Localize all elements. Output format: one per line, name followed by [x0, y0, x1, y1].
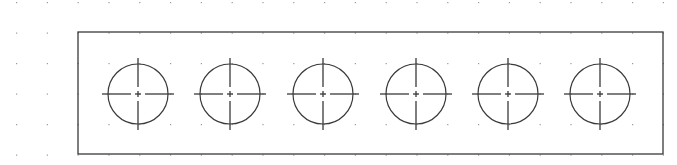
grid-dot: [262, 33, 263, 34]
grid-dot: [170, 33, 171, 34]
grid-dot: [201, 124, 202, 125]
grid-dot: [355, 124, 356, 125]
grid-dot: [293, 2, 294, 3]
hole-pattern: [102, 58, 636, 130]
grid-dot: [386, 155, 387, 156]
grid-dot: [386, 33, 387, 34]
hole-1: [102, 58, 174, 130]
grid-dot: [509, 2, 510, 3]
grid-dot: [570, 63, 571, 64]
hole-2: [194, 58, 266, 130]
grid-dot: [47, 124, 48, 125]
grid-dot: [232, 2, 233, 3]
grid-dot: [16, 124, 17, 125]
grid-dot: [478, 33, 479, 34]
grid-dot: [170, 63, 171, 64]
cad-drawing-canvas: [0, 0, 677, 165]
grid-dot: [509, 155, 510, 156]
grid-dot: [632, 2, 633, 3]
grid-dot: [324, 33, 325, 34]
grid-dot: [570, 33, 571, 34]
grid-dot: [632, 124, 633, 125]
grid-dot: [16, 2, 17, 3]
grid-dot: [293, 33, 294, 34]
grid-dot: [478, 155, 479, 156]
grid-dot: [416, 155, 417, 156]
grid-dot: [47, 2, 48, 3]
grid-dot: [386, 63, 387, 64]
grid-dot: [601, 33, 602, 34]
grid-dot: [447, 2, 448, 3]
grid-dot: [139, 155, 140, 156]
grid-dot: [447, 33, 448, 34]
grid-dot: [16, 155, 17, 156]
grid-dot: [355, 63, 356, 64]
grid-dot: [170, 155, 171, 156]
grid-dot: [201, 33, 202, 34]
grid-dot: [632, 63, 633, 64]
grid-dot: [108, 63, 109, 64]
grid-dot: [540, 2, 541, 3]
grid-dot: [324, 2, 325, 3]
grid-dot: [108, 33, 109, 34]
grid-dot: [355, 155, 356, 156]
grid-dot: [262, 155, 263, 156]
hole-4: [380, 58, 452, 130]
grid-dot: [416, 33, 417, 34]
grid-dot: [47, 155, 48, 156]
grid-dot: [447, 63, 448, 64]
grid-dot: [47, 94, 48, 95]
grid-dot: [16, 94, 17, 95]
hole-5: [472, 58, 544, 130]
grid-dot: [540, 155, 541, 156]
grid-dot: [262, 124, 263, 125]
grid-dot: [601, 2, 602, 3]
grid-dot: [663, 155, 664, 156]
grid-dot: [355, 33, 356, 34]
grid-dot: [570, 155, 571, 156]
grid-dot: [293, 124, 294, 125]
grid-dot: [632, 155, 633, 156]
grid-dot: [386, 2, 387, 3]
grid-dot: [540, 63, 541, 64]
plate-outline: [78, 32, 663, 154]
grid-dot: [293, 155, 294, 156]
grid-dot: [540, 124, 541, 125]
grid-dot: [355, 2, 356, 3]
snap-grid-dots: [16, 2, 664, 156]
grid-dot: [262, 2, 263, 3]
grid-dot: [447, 155, 448, 156]
grid-dot: [632, 33, 633, 34]
grid-dot: [139, 33, 140, 34]
grid-dot: [108, 124, 109, 125]
grid-dot: [170, 2, 171, 3]
grid-dot: [663, 2, 664, 3]
grid-dot: [570, 124, 571, 125]
grid-dot: [201, 2, 202, 3]
grid-dot: [601, 155, 602, 156]
grid-dot: [47, 33, 48, 34]
grid-dot: [232, 155, 233, 156]
grid-dot: [570, 2, 571, 3]
grid-dot: [108, 155, 109, 156]
grid-dot: [509, 33, 510, 34]
grid-dot: [324, 155, 325, 156]
grid-dot: [232, 33, 233, 34]
grid-dot: [478, 63, 479, 64]
grid-dot: [478, 2, 479, 3]
hole-3: [287, 58, 359, 130]
grid-dot: [201, 63, 202, 64]
grid-dot: [201, 155, 202, 156]
grid-dot: [386, 124, 387, 125]
hole-6: [564, 58, 636, 130]
grid-dot: [293, 63, 294, 64]
grid-dot: [78, 155, 79, 156]
grid-dot: [16, 33, 17, 34]
grid-dot: [16, 63, 17, 64]
grid-dot: [262, 63, 263, 64]
grid-dot: [139, 2, 140, 3]
grid-dot: [47, 63, 48, 64]
grid-dot: [478, 124, 479, 125]
grid-dot: [540, 33, 541, 34]
grid-dot: [416, 2, 417, 3]
